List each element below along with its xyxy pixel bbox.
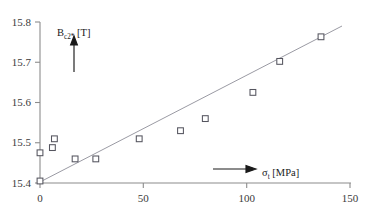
data-point	[37, 178, 43, 184]
right-arrow-icon	[213, 166, 256, 173]
y-tick-label: 15.8	[12, 16, 32, 28]
data-point	[202, 116, 208, 122]
data-point	[72, 156, 78, 162]
data-point	[136, 136, 142, 142]
y-axis-title: Bc2* [T]	[57, 22, 90, 41]
x-axis-ticks	[40, 183, 350, 188]
y-axis-title-unit: [T]	[74, 27, 90, 38]
data-point	[52, 136, 58, 142]
scatter-plot: 15.4 15.5 15.6 15.7 15.8 0 50 100 150	[0, 0, 365, 223]
y-tick-label: 15.6	[12, 96, 32, 108]
chart-container: 15.4 15.5 15.6 15.7 15.8 0 50 100 150	[0, 0, 365, 223]
data-point	[93, 156, 99, 162]
data-point	[37, 150, 43, 156]
x-tick-label: 50	[138, 192, 150, 204]
y-axis-ticks	[35, 22, 40, 183]
data-point	[250, 90, 256, 96]
y-axis-title-base: B	[57, 27, 64, 38]
up-arrow-icon	[71, 36, 78, 72]
y-tick-label: 15.7	[12, 56, 32, 68]
data-point	[318, 34, 324, 40]
data-point	[277, 59, 283, 65]
y-tick-label: 15.5	[12, 136, 32, 148]
trend-line	[40, 26, 342, 182]
y-axis-title-subscript: c2*	[64, 33, 74, 41]
x-axis-title: σt [MPa]	[262, 162, 299, 181]
data-point	[178, 128, 184, 134]
x-tick-label: 150	[342, 192, 359, 204]
x-tick-label: 0	[37, 192, 43, 204]
x-tick-label: 100	[238, 192, 255, 204]
y-tick-label: 15.4	[12, 177, 32, 189]
data-point	[50, 145, 56, 151]
x-axis-title-unit: [MPa]	[270, 167, 299, 178]
